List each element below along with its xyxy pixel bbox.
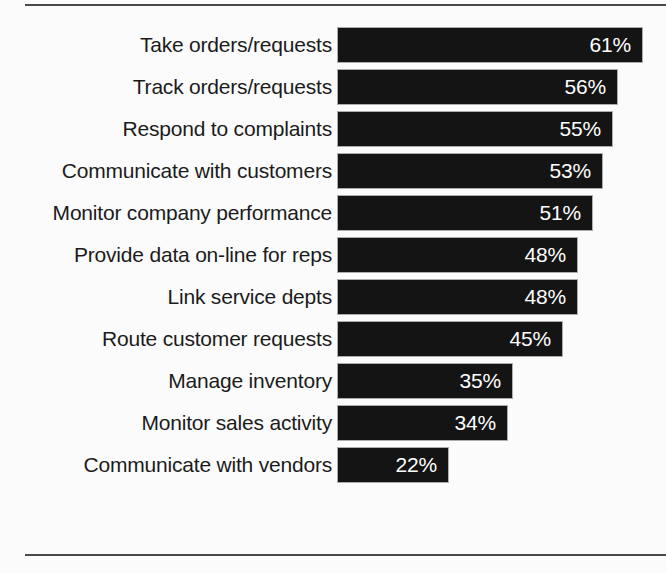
bar-category-label: Monitor company performance (53, 196, 332, 230)
bar-row: Take orders/requests61% (0, 28, 666, 62)
bar-category-label: Monitor sales activity (142, 406, 333, 440)
bar: 48% (338, 238, 577, 272)
bar-value-label: 61% (590, 28, 631, 62)
bar-category-label: Provide data on-line for reps (74, 238, 332, 272)
bar-row: Provide data on-line for reps48% (0, 238, 666, 272)
bar-row: Respond to complaints55% (0, 112, 666, 146)
bar: 56% (338, 70, 617, 104)
bar-category-label: Communicate with customers (62, 154, 332, 188)
bar-row: Monitor sales activity34% (0, 406, 666, 440)
bar-value-label: 48% (525, 280, 566, 314)
bar-category-label: Communicate with vendors (84, 448, 332, 482)
bar: 61% (338, 28, 642, 62)
chart-plot-area: Take orders/requests61%Track orders/requ… (0, 28, 666, 528)
bar-value-label: 53% (550, 154, 591, 188)
bar-category-label: Manage inventory (168, 364, 332, 398)
bar-category-label: Route customer requests (102, 322, 332, 356)
bar-value-label: 48% (525, 238, 566, 272)
bar-row: Communicate with vendors22% (0, 448, 666, 482)
bar: 55% (338, 112, 612, 146)
bar-row: Route customer requests45% (0, 322, 666, 356)
bar-category-label: Respond to complaints (123, 112, 332, 146)
bar-category-label: Track orders/requests (133, 70, 332, 104)
bar-row: Communicate with customers53% (0, 154, 666, 188)
bar-value-label: 51% (540, 196, 581, 230)
bar: 34% (338, 406, 507, 440)
bar-row: Monitor company performance51% (0, 196, 666, 230)
bar: 22% (338, 448, 448, 482)
bar-chart-figure: Take orders/requests61%Track orders/requ… (0, 0, 666, 573)
bar: 35% (338, 364, 512, 398)
bar-value-label: 35% (460, 364, 501, 398)
bar-row: Link service depts48% (0, 280, 666, 314)
bar-row: Track orders/requests56% (0, 70, 666, 104)
bar: 45% (338, 322, 562, 356)
bar-category-label: Link service depts (168, 280, 332, 314)
bar-value-label: 34% (455, 406, 496, 440)
bar-value-label: 56% (565, 70, 606, 104)
bar: 53% (338, 154, 602, 188)
bar: 48% (338, 280, 577, 314)
bar-row: Manage inventory35% (0, 364, 666, 398)
bar-category-label: Take orders/requests (140, 28, 332, 62)
bar-value-label: 22% (396, 448, 437, 482)
bottom-rule (25, 554, 666, 556)
top-rule (25, 4, 666, 6)
bar-value-label: 45% (510, 322, 551, 356)
bar-value-label: 55% (560, 112, 601, 146)
bar: 51% (338, 196, 592, 230)
